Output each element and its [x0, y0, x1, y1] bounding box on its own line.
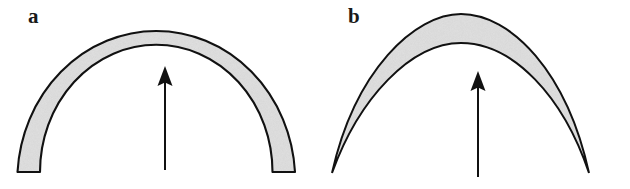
- figure-canvas: a: [0, 0, 630, 189]
- panel-b: b: [315, 0, 630, 189]
- arch-band-a: [18, 31, 296, 172]
- panel-a-drawing: [0, 0, 315, 189]
- arrow-up-icon-a: [158, 66, 173, 170]
- panel-b-drawing: [315, 0, 630, 189]
- panel-a: a: [0, 0, 315, 189]
- arrow-up-icon-b: [471, 71, 486, 177]
- arch-band-b: [332, 14, 589, 173]
